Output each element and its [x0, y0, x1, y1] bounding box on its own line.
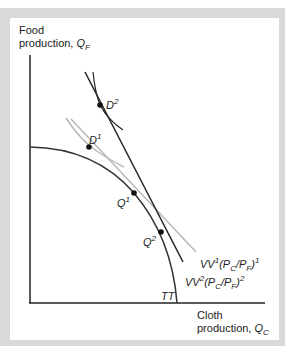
y-axis-label: Food production, QF	[19, 24, 90, 54]
q2-label: Q2	[143, 232, 156, 249]
production-possibility-frontier	[30, 147, 177, 303]
q1-label: Q1	[117, 193, 130, 210]
isovalue-line-2	[85, 72, 183, 262]
point-d2	[97, 102, 103, 108]
point-q1	[131, 190, 137, 196]
vv2-label: VV2(PC/PF)2	[185, 272, 244, 293]
x-axis-label: Cloth production, QC	[197, 309, 269, 339]
d2-label: D2	[106, 95, 118, 112]
d1-label: D1	[89, 130, 101, 147]
tt-label: TT	[161, 290, 174, 303]
point-q2	[158, 229, 164, 235]
